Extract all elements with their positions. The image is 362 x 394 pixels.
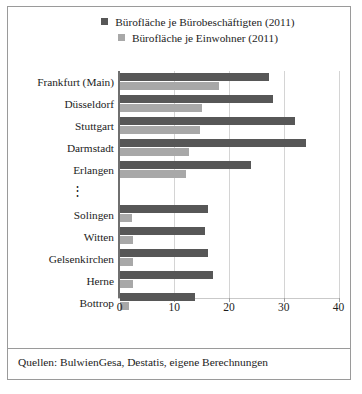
bar <box>120 236 133 244</box>
category-axis-labels: Frankfurt (Main) Düsseldorf Stuttgart Da… <box>14 71 114 298</box>
bar <box>120 148 190 156</box>
bar <box>120 227 205 235</box>
x-axis-tick-label: 20 <box>223 301 235 313</box>
chart-figure: Bürofläche je Bürobeschäftigten (2011) B… <box>0 0 362 394</box>
bar <box>120 205 209 213</box>
gridline <box>339 71 340 298</box>
bar-group-row <box>120 71 339 93</box>
bar <box>120 117 295 125</box>
bar-group-row <box>120 226 339 248</box>
bar-group-row <box>120 204 339 226</box>
bar <box>120 104 203 112</box>
x-axis-tick-labels: 010203040 <box>118 301 339 319</box>
legend-swatch-icon-light <box>118 34 125 41</box>
bar-group-row <box>120 137 339 159</box>
category-label: Stuttgart <box>14 115 114 137</box>
bar-group-row <box>120 159 339 181</box>
x-axis-tick-label: 10 <box>169 301 181 313</box>
legend-swatch-icon-dark <box>101 18 108 25</box>
bar-group-row <box>120 248 339 270</box>
x-axis-tick-label: 40 <box>333 301 345 313</box>
category-label-ellipsis: ⋮ <box>14 181 114 203</box>
legend-item-bueroflaeche-je-bürobeschaeftigten: Bürofläche je Bürobeschäftigten (2011) <box>0 14 362 30</box>
legend-item-bueroflaeche-je-einwohner: Bürofläche je Einwohner (2011) <box>0 30 362 46</box>
bar <box>120 249 209 257</box>
category-label: Erlangen <box>14 159 114 181</box>
bar <box>120 73 269 81</box>
bar-group-row <box>120 115 339 137</box>
bar <box>120 139 306 147</box>
bar <box>120 258 133 266</box>
category-label: Solingen <box>14 204 114 226</box>
bar-group-row <box>120 270 339 292</box>
category-label: Herne <box>14 270 114 292</box>
bar <box>120 95 273 103</box>
category-label: Düsseldorf <box>14 93 114 115</box>
category-label: Frankfurt (Main) <box>14 71 114 93</box>
bar-group-row <box>120 181 339 203</box>
source-divider <box>8 348 350 349</box>
plot-area <box>118 71 339 298</box>
bar-group-row <box>120 93 339 115</box>
legend-label-dark: Bürofläche je Bürobeschäftigten (2011) <box>115 16 294 28</box>
bar <box>120 170 187 178</box>
bar <box>120 126 200 134</box>
category-label: Gelsenkirchen <box>14 248 114 270</box>
bar-rows <box>120 71 339 298</box>
x-axis-tick-label: 0 <box>117 301 123 313</box>
category-label: Witten <box>14 226 114 248</box>
x-axis-tick-label: 30 <box>278 301 290 313</box>
bar <box>120 271 213 279</box>
chart-legend: Bürofläche je Bürobeschäftigten (2011) B… <box>0 14 362 46</box>
source-note: Quellen: BulwienGesa, Destatis, eigene B… <box>18 356 268 368</box>
bar <box>120 82 220 90</box>
legend-label-light: Bürofläche je Einwohner (2011) <box>132 32 278 44</box>
category-label: Bottrop <box>14 292 114 314</box>
bar <box>120 280 133 288</box>
bar <box>120 214 132 222</box>
category-label: Darmstadt <box>14 137 114 159</box>
bar <box>120 161 251 169</box>
